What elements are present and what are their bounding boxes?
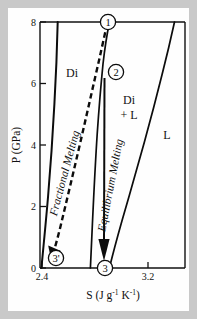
y-tick-label-4: 4 — [31, 140, 36, 151]
marker-2-label: 2 — [113, 67, 118, 78]
x-axis-title-mid: K — [119, 289, 131, 301]
x-tick-label-3p2: 3.2 — [142, 271, 155, 282]
label-equilibrium-melting: Equilibrium Melting — [95, 138, 126, 234]
field-label-di-plus-l-line1: Di — [123, 93, 136, 107]
equilibrium-melting-arrowhead — [98, 239, 109, 261]
x-axis-title-end: ) — [136, 289, 140, 302]
figure-panel: 0 2 4 6 8 2.4 3.2 P (GPa) S (J g-1 K-1) — [8, 8, 189, 311]
marker-3: 3 — [97, 260, 112, 275]
y-tick-label-6: 6 — [31, 78, 36, 89]
y-tick-label-8: 8 — [31, 17, 36, 28]
field-label-l: L — [163, 128, 170, 142]
marker-2: 2 — [108, 64, 123, 79]
field-label-di-plus-l-line2: + L — [120, 108, 137, 122]
marker-3-label: 3 — [102, 263, 107, 274]
phase-diagram-plot: 0 2 4 6 8 2.4 3.2 P (GPa) S (J g-1 K-1) — [8, 8, 189, 311]
x-axis-title-main: S (J g — [86, 289, 112, 302]
marker-3-prime: 3' — [48, 250, 63, 265]
figure-root: 0 2 4 6 8 2.4 3.2 P (GPa) S (J g-1 K-1) — [0, 0, 197, 319]
field-label-di: Di — [66, 66, 79, 80]
x-tick-label-2p4: 2.4 — [36, 271, 49, 282]
marker-3-prime-label: 3' — [52, 253, 59, 264]
marker-1-label: 1 — [105, 17, 110, 28]
marker-1: 1 — [100, 14, 115, 29]
y-tick-label-2: 2 — [31, 201, 36, 212]
x-axis-title: S (J g-1 K-1) — [86, 288, 140, 302]
y-axis-title: P (GPa) — [10, 127, 23, 163]
